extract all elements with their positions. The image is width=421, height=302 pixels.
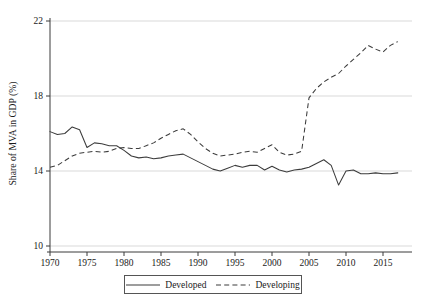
legend-item-developing: Developing bbox=[211, 280, 304, 290]
legend-item-developed: Developed bbox=[121, 280, 211, 290]
data-series bbox=[50, 42, 398, 185]
x-tick-label-1995: 1995 bbox=[226, 258, 245, 268]
x-tick-label-1980: 1980 bbox=[115, 258, 134, 268]
legend-line-solid-icon bbox=[126, 281, 160, 289]
y-tick-labels: 10141822 bbox=[34, 16, 44, 251]
legend-label-developing: Developing bbox=[255, 280, 299, 290]
x-tick-label-2010: 2010 bbox=[337, 258, 356, 268]
y-tick-label-22: 22 bbox=[34, 16, 44, 26]
grid-lines bbox=[50, 21, 412, 246]
y-tick-label-18: 18 bbox=[34, 91, 44, 101]
x-tick-label-2005: 2005 bbox=[300, 258, 319, 268]
series-line-developing bbox=[50, 42, 398, 168]
x-tick-labels: 1970197519801985199019952000200520102015 bbox=[41, 258, 393, 268]
y-axis-title: Share of MVA in GDP (%) bbox=[7, 81, 19, 185]
x-tick-label-1990: 1990 bbox=[189, 258, 208, 268]
tick-marks bbox=[46, 21, 383, 256]
x-tick-label-1970: 1970 bbox=[41, 258, 60, 268]
y-axis-title-text: Share of MVA in GDP (%) bbox=[7, 81, 19, 185]
y-tick-label-10: 10 bbox=[34, 241, 44, 251]
y-tick-label-14: 14 bbox=[34, 166, 44, 176]
chart-axes bbox=[47, 18, 412, 252]
line-chart-canvas: 10141822 1970197519801985199019952000200… bbox=[0, 0, 421, 302]
legend-line-dashed-icon bbox=[216, 281, 250, 289]
legend-label-developed: Developed bbox=[165, 280, 206, 290]
chart-figure: 10141822 1970197519801985199019952000200… bbox=[0, 0, 421, 302]
x-tick-label-2015: 2015 bbox=[374, 258, 393, 268]
x-tick-label-1985: 1985 bbox=[152, 258, 171, 268]
chart-legend: Developed Developing bbox=[124, 275, 302, 294]
x-tick-label-2000: 2000 bbox=[263, 258, 282, 268]
x-tick-label-1975: 1975 bbox=[78, 258, 97, 268]
